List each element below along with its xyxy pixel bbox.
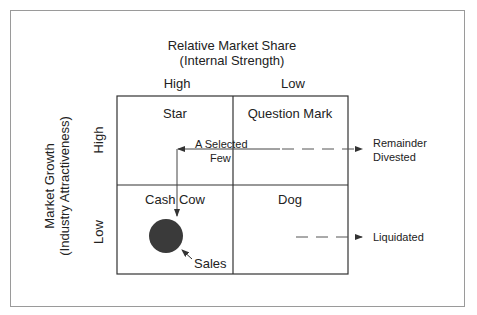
remainder-divested-label-line1: Remainder xyxy=(373,137,427,149)
quadrant-star-label: Star xyxy=(163,106,187,121)
quadrant-question-mark-label: Question Mark xyxy=(248,106,333,121)
sales-label: Sales xyxy=(194,256,227,271)
quadrant-cash-cow-label: Cash Cow xyxy=(145,192,205,207)
sales-circle xyxy=(149,219,183,253)
liquidated-label: Liquidated xyxy=(373,231,424,243)
selected-few-label-line2: Few xyxy=(210,152,231,164)
remainder-divested-label-line2: Divested xyxy=(373,151,416,163)
selected-few-label-line1: A Selected xyxy=(195,138,248,150)
sales-pointer-arrow xyxy=(182,250,192,259)
quadrant-dog-label: Dog xyxy=(278,192,302,207)
